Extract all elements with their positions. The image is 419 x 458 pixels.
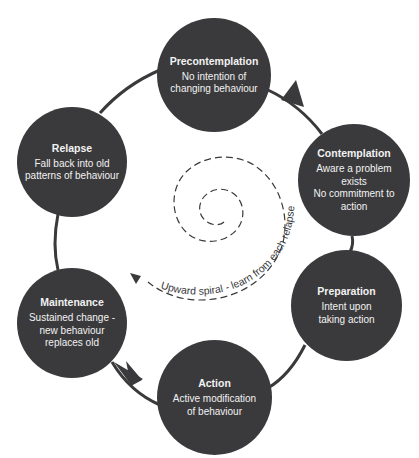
- stage-precontemplation: Precontemplation No intention of changin…: [157, 18, 271, 132]
- arc-preparation-to-action: [268, 345, 305, 388]
- stage-title: Preparation: [317, 285, 375, 298]
- arc-maintenance-to-relapse: [55, 214, 58, 270]
- arc-relapse-to-precontemplation: [100, 70, 160, 113]
- stage-description: Active modification of behaviour: [173, 393, 256, 418]
- stage-title: Precontemplation: [170, 55, 259, 68]
- stage-description: Sustained change - new behaviour replace…: [29, 312, 115, 350]
- stage-title: Contemplation: [317, 147, 391, 160]
- spiral-arrowhead: [130, 273, 141, 284]
- arrowhead-to-contemplation: [281, 80, 304, 107]
- stage-description: No intention of changing behaviour: [170, 71, 257, 96]
- spiral-label: Upward spiral - learn from each relapse: [160, 205, 297, 297]
- stage-description: Fall back into old patterns of behaviour: [25, 158, 119, 183]
- stage-title: Relapse: [52, 142, 92, 155]
- stage-relapse: Relapse Fall back into old patterns of b…: [17, 107, 127, 217]
- stage-description: Aware a problem exists No commitment to …: [313, 163, 394, 213]
- spiral-dashed: [148, 157, 285, 300]
- stage-title: Action: [198, 377, 231, 390]
- stages-of-change-diagram: Upward spiral - learn from each relapse …: [0, 0, 419, 458]
- stage-preparation: Preparation Intent upon taking action: [291, 250, 402, 361]
- stage-title: Maintenance: [40, 296, 104, 309]
- stage-contemplation: Contemplation Aware a problem exists No …: [298, 124, 410, 236]
- stage-action: Action Active modification of behaviour: [157, 340, 272, 455]
- stage-description: Intent upon taking action: [318, 301, 374, 326]
- stage-maintenance: Maintenance Sustained change - new behav…: [17, 268, 127, 378]
